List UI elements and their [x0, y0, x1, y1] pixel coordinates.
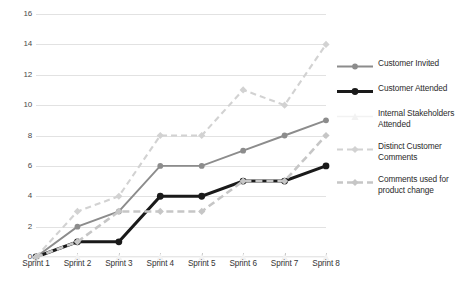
data-point-marker [198, 193, 205, 200]
data-point-marker [157, 208, 164, 215]
legend-label: Customer Invited [374, 58, 439, 69]
data-point-marker [157, 193, 164, 200]
legend-item[interactable]: Customer Invited [336, 58, 475, 72]
legend-item[interactable]: Comments used for product change [336, 174, 475, 196]
x-tick-label: Sprint 8 [312, 259, 339, 269]
data-point-marker [323, 162, 330, 169]
legend-marker-icon [336, 59, 374, 72]
data-point-marker [75, 224, 81, 230]
data-point-marker [322, 41, 329, 48]
legend-marker-icon [336, 142, 374, 155]
x-tick-label: Sprint 6 [229, 259, 256, 269]
legend-item[interactable]: Customer Attended [336, 83, 475, 97]
legend-item[interactable]: Distinct Customer Comments [336, 141, 475, 163]
data-point-marker [240, 86, 247, 93]
y-tick-label: 8 [6, 132, 32, 140]
chart-legend: Customer InvitedCustomer AttendedInterna… [336, 58, 475, 207]
legend-label: Internal Stakeholders Attended [374, 108, 475, 130]
legend-marker-icon [336, 84, 374, 97]
legend-marker-icon [336, 109, 374, 122]
x-tick-label: Sprint 4 [147, 259, 174, 269]
series-layer [36, 14, 326, 257]
x-axis-labels: Sprint 1Sprint 2Sprint 3Sprint 4Sprint 5… [36, 259, 326, 279]
x-tick-label: Sprint 1 [22, 259, 49, 269]
x-tick-label: Sprint 2 [64, 259, 91, 269]
data-point-marker [281, 102, 288, 109]
legend-label: Customer Attended [374, 83, 447, 94]
y-tick-label: 16 [6, 10, 32, 18]
data-point-marker [74, 208, 81, 215]
plot-area [36, 14, 326, 257]
y-tick-label: 6 [6, 162, 32, 170]
data-point-marker [199, 163, 205, 169]
y-tick-label: 2 [6, 223, 32, 231]
series-line [36, 120, 326, 257]
y-tick-label: 12 [6, 71, 32, 79]
data-point-marker [352, 64, 358, 70]
data-point-marker [351, 179, 358, 186]
data-point-marker [157, 163, 163, 169]
data-point-marker [351, 146, 358, 153]
legend-marker-icon [336, 175, 374, 188]
data-point-marker [240, 148, 246, 154]
data-point-marker [115, 193, 122, 200]
y-axis: 0246810121416 [0, 14, 32, 257]
data-point-marker [322, 132, 329, 139]
line-chart: 0246810121416 Sprint 1Sprint 2Sprint 3Sp… [0, 0, 475, 295]
y-tick-label: 10 [6, 101, 32, 109]
x-tick-label: Sprint 5 [188, 259, 215, 269]
y-tick-label: 14 [6, 40, 32, 48]
data-point-marker [115, 238, 122, 245]
legend-label: Comments used for product change [374, 174, 475, 196]
x-tick-label: Sprint 7 [271, 259, 298, 269]
legend-label: Distinct Customer Comments [374, 141, 475, 163]
data-point-marker [282, 133, 288, 139]
legend-item[interactable]: Internal Stakeholders Attended [336, 108, 475, 130]
x-tick-label: Sprint 3 [105, 259, 132, 269]
data-point-marker [323, 117, 329, 123]
y-tick-label: 4 [6, 192, 32, 200]
data-point-marker [352, 88, 359, 95]
